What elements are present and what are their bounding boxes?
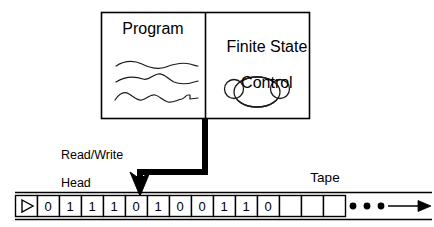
tape-continuation-arrowhead xyxy=(418,201,431,212)
tape-cell-value-2: 1 xyxy=(59,197,81,217)
tape-cell-value-5: 0 xyxy=(125,197,147,217)
turing-machine-diagram: Program Finite State Control Read/Write … xyxy=(0,0,434,227)
tape-ellipsis-icon xyxy=(350,203,385,210)
tape-cell-value-1: 0 xyxy=(37,197,59,217)
tape-cell-value-13 xyxy=(301,197,323,217)
arrow-right-icon xyxy=(388,201,431,212)
tape-cell-value-11: 0 xyxy=(257,197,279,217)
tape-cell-value-14 xyxy=(323,197,345,217)
finite-state-control-label: Finite State Control xyxy=(206,20,310,110)
tape-cell-value-12 xyxy=(279,197,301,217)
tape-cell-value-4: 1 xyxy=(103,197,125,217)
tape-cell-value-6: 1 xyxy=(147,197,169,217)
tape-cell-value-10: 1 xyxy=(235,197,257,217)
finite-state-control-label-line1: Finite State xyxy=(226,38,307,55)
ellipsis-dot-3 xyxy=(378,203,385,210)
tape-cell-value-7: 0 xyxy=(169,197,191,217)
program-label: Program xyxy=(101,20,205,38)
ellipsis-dot-2 xyxy=(364,203,371,210)
tape-cell-value-8: 0 xyxy=(191,197,213,217)
ellipsis-dot-1 xyxy=(350,203,357,210)
read-write-head-label-line1: Read/Write xyxy=(61,148,123,162)
tape-cell-value-3: 1 xyxy=(81,197,103,217)
read-write-head-label-line2: Head xyxy=(61,176,91,190)
read-write-head-label: Read/Write Head xyxy=(47,134,123,204)
tape-cell-value-9: 1 xyxy=(213,197,235,217)
finite-state-control-label-line2: Control xyxy=(241,74,293,91)
head-connector xyxy=(130,119,205,196)
tape-label: Tape xyxy=(295,170,355,185)
